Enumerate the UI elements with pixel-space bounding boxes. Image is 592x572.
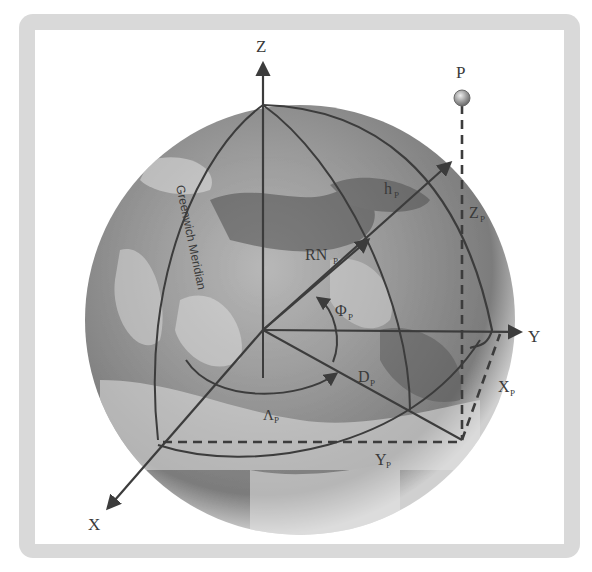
svg-text:RN: RN (305, 246, 328, 263)
svg-text:P: P (370, 378, 375, 388)
x-axis-label: X (88, 515, 100, 534)
svg-text:P: P (348, 312, 353, 322)
svg-text:P: P (480, 214, 485, 224)
svg-text:Z: Z (469, 204, 479, 221)
svg-text:P: P (386, 460, 391, 470)
svg-text:h: h (384, 180, 392, 197)
z-axis-label: Z (256, 37, 266, 56)
svg-text:Λ: Λ (263, 407, 274, 423)
svg-text:X: X (498, 378, 510, 395)
svg-text:P: P (274, 415, 279, 425)
svg-text:Φ: Φ (335, 302, 347, 319)
svg-text:P: P (394, 190, 399, 200)
point-p-label: P (456, 63, 465, 82)
point-p-marker (454, 90, 470, 106)
svg-text:P: P (510, 388, 515, 398)
svg-text:P: P (333, 256, 338, 266)
y-axis-label: Y (528, 327, 540, 346)
diagram-stage: Greenwich Meridian Z Y X (0, 0, 592, 572)
svg-text:D: D (358, 368, 370, 385)
